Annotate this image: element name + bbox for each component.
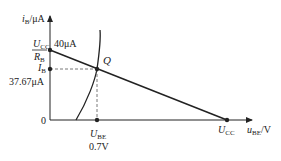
y-axis-label: iB/μA	[22, 13, 46, 26]
ucc-dot	[225, 118, 229, 122]
ube-dot	[95, 118, 99, 122]
ib-value: 37.67μA	[9, 76, 45, 87]
origin-label: 0	[41, 115, 46, 126]
q-point-dot	[95, 67, 99, 71]
ib-dot	[48, 67, 52, 71]
ucc-x-label: UCC	[218, 124, 235, 137]
load-line	[50, 50, 227, 120]
load-line-diagram: iB/μA UCC RB 40μA IB 37.67μA Q 0 UBE 0.7…	[0, 0, 281, 161]
x-axis-label: uBE/V	[247, 124, 272, 137]
q-label: Q	[103, 54, 111, 66]
ube-value: 0.7V	[89, 141, 110, 152]
ucc-numerator: UCC	[33, 38, 50, 51]
intercept-y-value: 40μA	[54, 38, 77, 49]
ube-label: UBE	[90, 128, 106, 141]
